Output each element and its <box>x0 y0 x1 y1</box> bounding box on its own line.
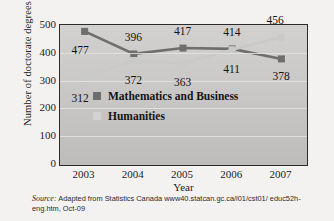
legend-swatch-icon <box>93 92 101 100</box>
legend-item-humanities: Humanities <box>93 110 238 122</box>
data-value-label: 372 <box>125 75 142 87</box>
x-axis-tick-labels: 20032004200520062007 <box>59 168 308 182</box>
y-axis-tick-label: 500 <box>30 19 56 30</box>
x-axis-tick-label: 2004 <box>110 168 156 180</box>
data-value-label: 414 <box>223 27 240 39</box>
data-value-label: 363 <box>174 77 191 89</box>
data-point-marker <box>130 50 137 57</box>
data-value-label: 477 <box>72 45 89 57</box>
data-point-marker <box>278 34 285 41</box>
series-line <box>85 37 282 77</box>
chart-legend: Mathematics and Business Humanities <box>93 90 238 130</box>
data-value-label: 312 <box>72 93 89 105</box>
legend-swatch-icon <box>93 112 101 120</box>
y-axis-tick-label: 300 <box>30 75 56 86</box>
x-axis-tick-label: 2003 <box>61 168 107 180</box>
source-text: Adapted from Statistics Canada www40.sta… <box>32 194 301 213</box>
chart-figure: Number of doctorate degrees 010020030040… <box>0 0 334 221</box>
legend-item-mathematics-and-business: Mathematics and Business <box>93 90 238 102</box>
source-prefix: Source: <box>32 194 57 203</box>
data-value-label: 417 <box>174 26 191 38</box>
x-axis-tick-label: 2005 <box>159 168 205 180</box>
y-axis-tick-label: 400 <box>30 47 56 58</box>
x-axis-title: Year <box>59 181 308 193</box>
data-value-label: 411 <box>223 64 240 76</box>
x-axis-tick-label: 2006 <box>208 168 254 180</box>
data-point-marker <box>278 55 285 62</box>
y-axis-tick-label: 100 <box>30 130 56 141</box>
legend-label: Mathematics and Business <box>108 90 238 102</box>
data-value-label: 378 <box>272 71 289 83</box>
source-note: Source: Adapted from Statistics Canada w… <box>32 193 322 214</box>
gridline <box>60 136 307 137</box>
data-point-marker <box>180 60 187 67</box>
data-point-marker <box>130 57 137 64</box>
data-point-marker <box>81 28 88 35</box>
y-axis-tick-labels: 0100200300400500 <box>28 24 56 165</box>
y-axis-tick-label: 200 <box>30 102 56 113</box>
y-axis-tick-label: 0 <box>30 158 56 169</box>
legend-label: Humanities <box>108 110 165 122</box>
x-axis-tick-label: 2007 <box>257 168 303 180</box>
data-point-marker <box>180 45 187 52</box>
data-value-label: 396 <box>125 32 142 44</box>
data-value-label: 456 <box>266 15 283 27</box>
gridline <box>60 53 307 54</box>
